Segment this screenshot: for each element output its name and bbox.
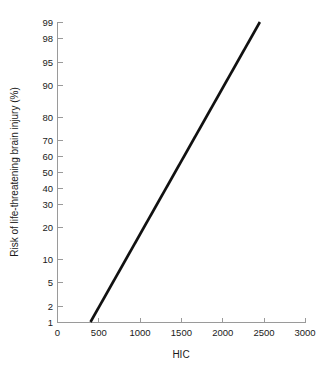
y-tick-label: 80 — [42, 112, 53, 123]
y-tick-label: 30 — [42, 199, 53, 210]
y-tick-label: 40 — [42, 183, 53, 194]
y-tick-label: 90 — [42, 80, 53, 91]
x-tick-label: 1000 — [130, 327, 151, 338]
y-axis-title: Risk of life-threatening brain injury (%… — [9, 87, 20, 257]
y-tick-label: 20 — [42, 222, 53, 233]
y-tick-label: 1 — [48, 317, 53, 328]
x-tick-label: 0 — [55, 327, 60, 338]
chart-figure: 99 98 95 90 80 70 60 50 40 30 20 10 5 2 … — [0, 0, 327, 375]
x-tick-label: 3000 — [294, 327, 315, 338]
x-tick-label: 2000 — [212, 327, 233, 338]
probability-plot: 99 98 95 90 80 70 60 50 40 30 20 10 5 2 … — [0, 0, 327, 375]
x-tick-label: 1500 — [171, 327, 192, 338]
y-tick-label: 95 — [42, 57, 53, 68]
y-tick-label: 60 — [42, 151, 53, 162]
x-axis-title: HIC — [172, 349, 189, 360]
y-tick-label: 2 — [48, 301, 53, 312]
y-tick-label: 10 — [42, 254, 53, 265]
y-tick-label: 99 — [42, 17, 53, 28]
y-tick-label: 70 — [42, 135, 53, 146]
x-tick-label: 500 — [91, 327, 107, 338]
x-tick-label: 2500 — [253, 327, 274, 338]
y-tick-label: 50 — [42, 167, 53, 178]
y-tick-label: 98 — [42, 33, 53, 44]
y-tick-label: 5 — [48, 277, 53, 288]
